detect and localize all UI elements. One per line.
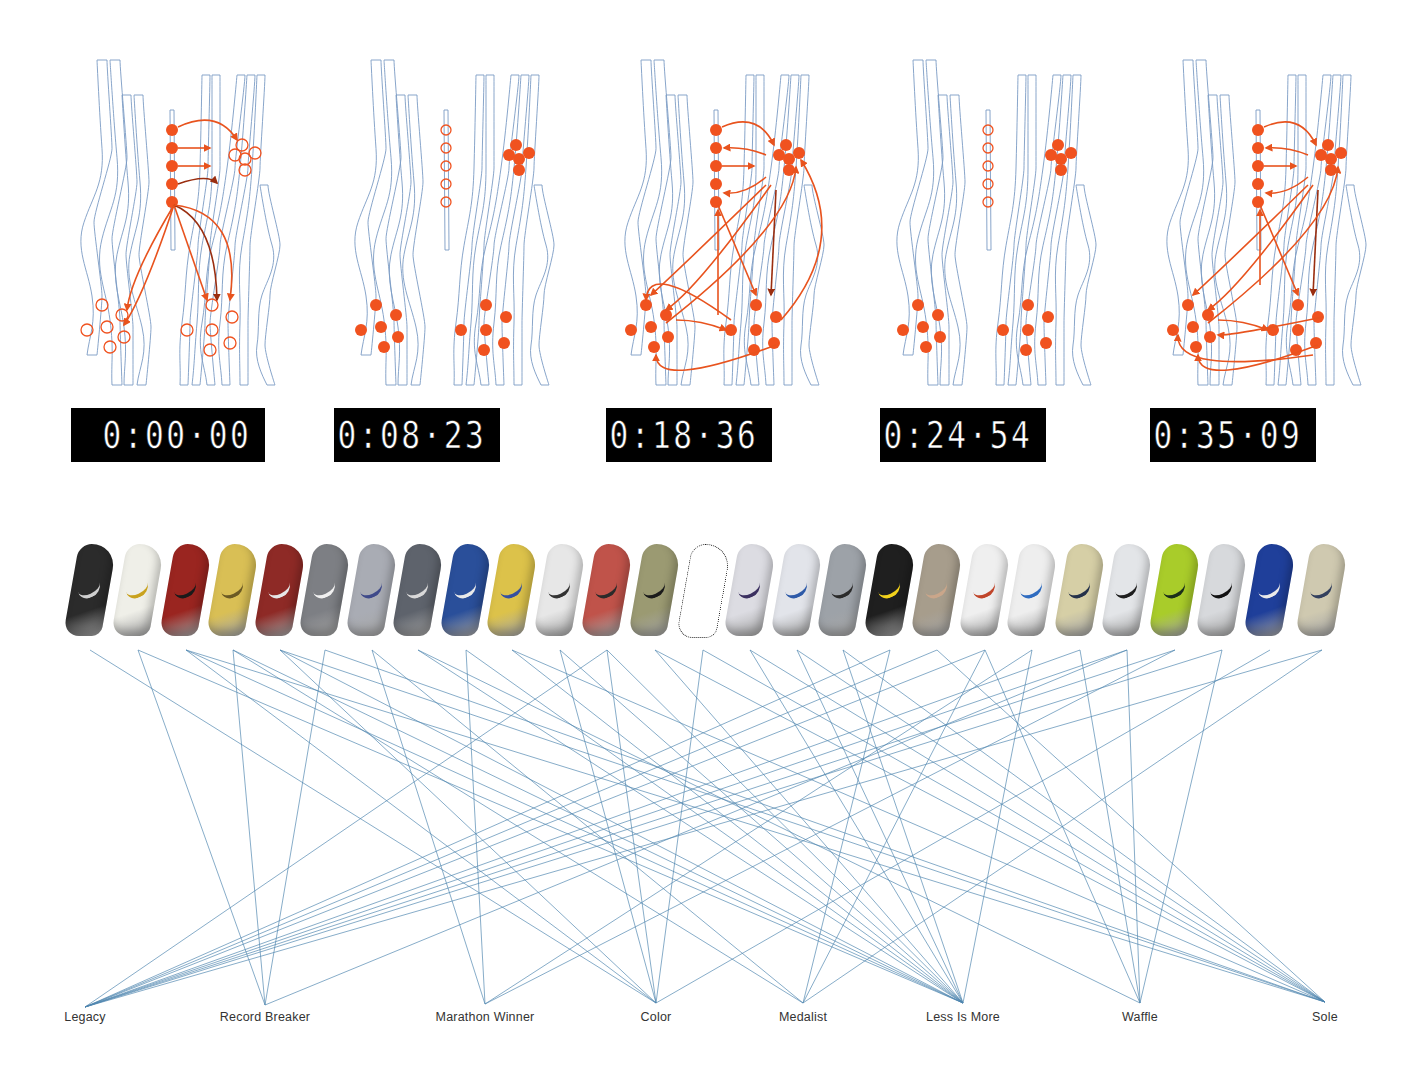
link-line [85, 650, 1127, 1007]
marker-node [710, 142, 722, 154]
shoe-20 [958, 544, 1012, 636]
fiber-strands [897, 60, 1096, 385]
marker-node [441, 197, 451, 207]
swoosh-icon [77, 580, 102, 602]
shoe-19 [910, 544, 964, 636]
flow-arrow [178, 120, 237, 140]
link-line [843, 650, 963, 1003]
swoosh-icon [453, 580, 478, 602]
link-line [138, 650, 963, 1003]
marker-node [1022, 324, 1034, 336]
link-line [233, 650, 265, 1005]
link-line [85, 650, 890, 1007]
link-line [466, 650, 485, 1004]
marker-node [920, 341, 932, 353]
link-line [233, 650, 803, 1003]
marker-node [750, 324, 762, 336]
marker-node [378, 341, 390, 353]
swoosh-icon [924, 580, 949, 602]
marker-node [983, 161, 993, 171]
swoosh-icon [312, 580, 337, 602]
marker-node [1252, 160, 1264, 172]
marker-node [355, 324, 367, 336]
link-line [703, 650, 1325, 1002]
swoosh-icon [359, 580, 384, 602]
marker-node [917, 321, 929, 333]
marker-node [1325, 164, 1337, 176]
marker-node [934, 331, 946, 343]
marker-node [510, 139, 522, 151]
swoosh-icon [1019, 580, 1044, 602]
shoe-8 [391, 544, 445, 636]
timer-value: 0:24·54 [883, 413, 1032, 457]
link-line [655, 650, 1325, 1002]
category-label: Sole [1312, 1010, 1338, 1024]
category-label: Waffle [1122, 1010, 1158, 1024]
shoe-27 [1295, 544, 1349, 636]
marker-node [997, 324, 1009, 336]
marker-node [239, 164, 251, 176]
swoosh-icon [1067, 580, 1092, 602]
shoe-2 [111, 544, 165, 636]
marker-node [1167, 324, 1179, 336]
marker-node [1252, 124, 1264, 136]
link-line [656, 650, 703, 1003]
category-label: Less Is More [926, 1010, 1000, 1024]
link-line [607, 650, 656, 1003]
link-line [85, 650, 937, 1007]
swoosh-icon [877, 580, 902, 602]
marker-node [498, 337, 510, 349]
flow-panel-1 [62, 55, 292, 400]
marker-node [1042, 311, 1054, 323]
shoe-5 [253, 544, 307, 636]
swoosh-icon [1162, 580, 1187, 602]
marker-node [625, 324, 637, 336]
flow-panel-5 [1148, 55, 1378, 400]
timer-value: 0:35·09 [1153, 413, 1302, 457]
marker-node [897, 324, 909, 336]
timer-display-1: 0:00·00 [71, 408, 265, 462]
marker-node [932, 309, 944, 321]
link-line [466, 650, 963, 1003]
timer-display-2: 0:08·23 [334, 408, 500, 462]
marker-node [441, 125, 451, 135]
shoe-14 [676, 544, 733, 638]
link-line [512, 650, 963, 1003]
marker-node [1292, 324, 1304, 336]
marker-node [662, 331, 674, 343]
marker-node [1182, 299, 1194, 311]
marker-node [1322, 139, 1334, 151]
marker-node [370, 299, 382, 311]
link-line [325, 650, 1325, 1002]
link-line [797, 650, 1325, 1002]
category-label: Color [641, 1010, 672, 1024]
swoosh-icon [1114, 580, 1139, 602]
category-label: Legacy [64, 1010, 106, 1024]
marker-node [441, 179, 451, 189]
swoosh-icon [547, 580, 572, 602]
shoe-4 [206, 544, 260, 636]
swoosh-icon [1209, 580, 1234, 602]
marker-node [523, 147, 535, 159]
fiber-strands [1167, 60, 1366, 385]
marker-node [390, 309, 402, 321]
swoosh-icon [220, 580, 245, 602]
marker-node [1204, 331, 1216, 343]
marker-node [1325, 153, 1337, 165]
swoosh-icon [267, 580, 292, 602]
link-line [512, 650, 1325, 1002]
marker-node [780, 139, 792, 151]
marker-node [104, 341, 116, 353]
marker-node [224, 337, 236, 349]
link-line [797, 650, 963, 1003]
flow-panel-3 [606, 55, 836, 400]
link-line [85, 650, 1222, 1007]
marker-node [725, 324, 737, 336]
link-line [750, 650, 963, 1003]
marker-node [783, 164, 795, 176]
marker-node [441, 161, 451, 171]
marker-node [480, 299, 492, 311]
marker-node [441, 143, 451, 153]
flow-arrow [174, 205, 232, 300]
marker-node [392, 331, 404, 343]
